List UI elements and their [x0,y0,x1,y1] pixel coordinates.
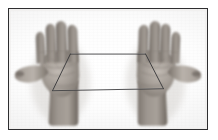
left-finger-middle [56,21,68,63]
right-fingers [138,21,181,64]
figure-root [0,0,218,140]
hands-with-string-illustration [9,9,207,130]
left-finger-little [36,32,46,64]
left-finger-ring [46,24,57,63]
left-thumb-nail [16,71,24,76]
right-finger-middle [149,21,161,63]
right-thumb-nail [192,71,200,76]
left-fingers [36,21,79,64]
figure-caption [0,0,1,1]
image-frame [8,8,208,130]
right-finger-ring [159,24,170,63]
right-finger-little [170,32,180,64]
